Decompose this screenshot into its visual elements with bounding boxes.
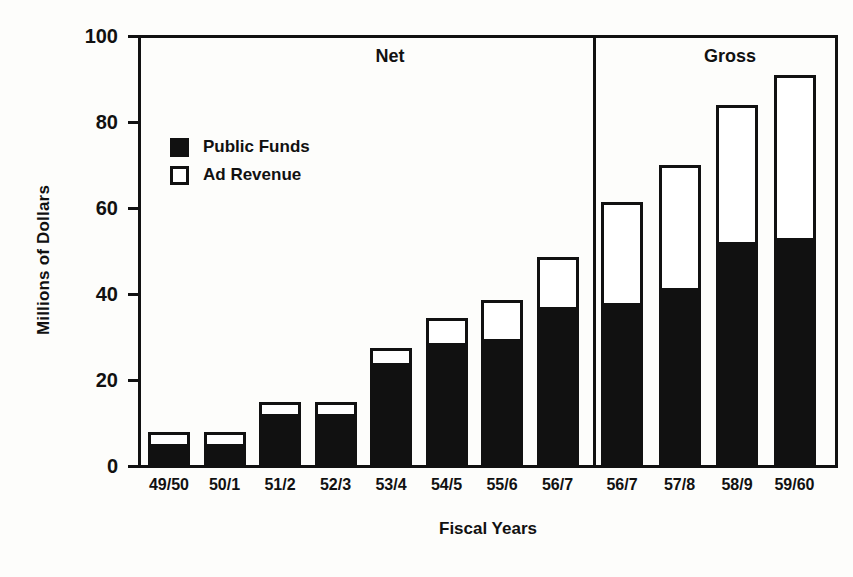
bar-segment-public-funds (716, 242, 758, 466)
legend-label-ad-revenue: Ad Revenue (203, 165, 301, 185)
y-axis-title: Millions of Dollars (34, 150, 54, 370)
bar-group (716, 105, 758, 466)
bar-segment-ad-revenue (659, 165, 701, 291)
bar-group (537, 257, 579, 466)
plot-frame-left (138, 35, 141, 468)
bar-segment-public-funds (259, 414, 301, 466)
bar-group (204, 432, 246, 466)
bar-segment-ad-revenue (774, 75, 816, 241)
y-tick-label-60: 60 (58, 198, 118, 218)
legend-swatch-ad-revenue-icon (170, 166, 189, 185)
y-tick-label-0: 0 (58, 456, 118, 476)
bar-segment-ad-revenue (601, 202, 643, 307)
bar-segment-public-funds (426, 343, 468, 466)
y-tick-80 (128, 121, 139, 124)
legend-item-ad-revenue: Ad Revenue (170, 162, 310, 188)
bar-segment-ad-revenue (537, 257, 579, 309)
bar-segment-public-funds (481, 339, 523, 466)
x-tick-label: 56/7 (523, 477, 593, 493)
legend-item-public-funds: Public Funds (170, 134, 310, 160)
y-tick-label-80: 80 (58, 112, 118, 132)
legend-label-public-funds: Public Funds (203, 137, 310, 157)
bar-segment-ad-revenue (481, 300, 523, 342)
plot-frame-right (835, 35, 838, 468)
bar-group (370, 348, 412, 466)
bar-segment-ad-revenue (716, 105, 758, 246)
legend-swatch-public-funds-icon (170, 138, 189, 157)
section-label-net: Net (300, 46, 480, 67)
legend: Public Funds Ad Revenue (170, 134, 310, 190)
bar-group (426, 318, 468, 466)
bar-group (774, 75, 816, 466)
section-label-gross: Gross (640, 46, 820, 67)
y-tick-60 (128, 207, 139, 210)
y-tick-label-20: 20 (58, 370, 118, 390)
bar-group (481, 300, 523, 466)
bar-group (259, 402, 301, 466)
y-tick-0 (128, 465, 139, 468)
x-axis-title: Fiscal Years (138, 519, 838, 539)
bar-segment-public-funds (148, 444, 190, 466)
x-tick-label: 59/60 (760, 477, 830, 493)
bar-group (315, 402, 357, 466)
bar-segment-public-funds (601, 303, 643, 466)
bar-segment-public-funds (774, 238, 816, 466)
y-tick-label-100: 100 (58, 26, 118, 46)
bar-group (659, 165, 701, 466)
plot-frame-top (138, 35, 838, 38)
bar-segment-public-funds (204, 444, 246, 466)
y-tick-40 (128, 293, 139, 296)
y-tick-label-40: 40 (58, 284, 118, 304)
y-tick-20 (128, 379, 139, 382)
bar-group (148, 432, 190, 466)
y-tick-100 (128, 35, 139, 38)
bar-segment-ad-revenue (426, 318, 468, 347)
bar-group (601, 202, 643, 466)
bar-segment-public-funds (537, 307, 579, 466)
bar-segment-public-funds (659, 288, 701, 466)
net-gross-divider (593, 35, 596, 468)
bar-chart: Millions of Dollars Fiscal Years 100 80 … (0, 0, 853, 577)
bar-segment-public-funds (315, 414, 357, 466)
bar-segment-public-funds (370, 363, 412, 466)
